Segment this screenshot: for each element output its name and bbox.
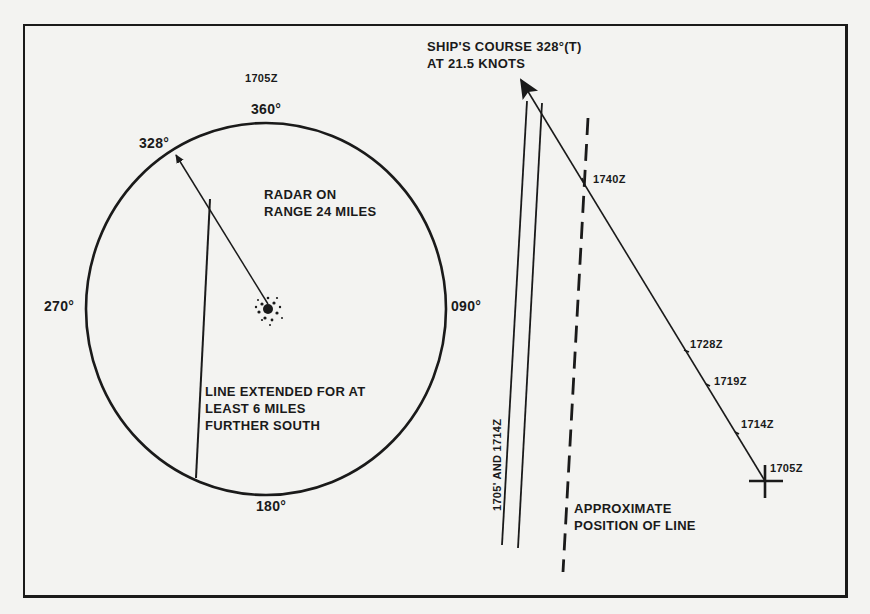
heading-arrow [176,155,268,304]
approximate-line-label: APPROXIMATE POSITION OF LINE [574,500,696,534]
diagram-canvas [0,0,870,614]
radar-echo-icon [255,297,283,326]
bearing-090-label: 090° [451,298,481,314]
radar-squall-line [196,199,210,478]
radar-range-note: RADAR ON RANGE 24 MILES [264,186,377,220]
position-label-1719: 1719Z [714,375,747,387]
track-plot [502,80,783,572]
observed-line-1714 [518,103,542,548]
position-label-1705: 1705Z [770,462,803,474]
bearing-270-label: 270° [44,298,74,314]
ship-course-label: SHIP'S COURSE 328°(T) AT 21.5 KNOTS [427,38,582,72]
bearing-328-label: 328° [139,135,169,151]
observed-line-1705 [502,101,527,545]
ship-course-line [521,80,765,481]
position-label-1728: 1728Z [690,338,723,350]
bearing-180-label: 180° [256,498,286,514]
bearing-360-label: 360° [251,101,281,117]
position-label-1740: 1740Z [593,173,626,185]
observed-lines-label: 1705' AND 1714Z [491,419,503,511]
course-ticks [582,178,739,434]
radar-scope [86,123,446,495]
radar-time-label: 1705Z [245,72,278,84]
position-label-1714: 1714Z [741,418,774,430]
line-extension-note: LINE EXTENDED FOR AT LEAST 6 MILES FURTH… [205,383,366,434]
